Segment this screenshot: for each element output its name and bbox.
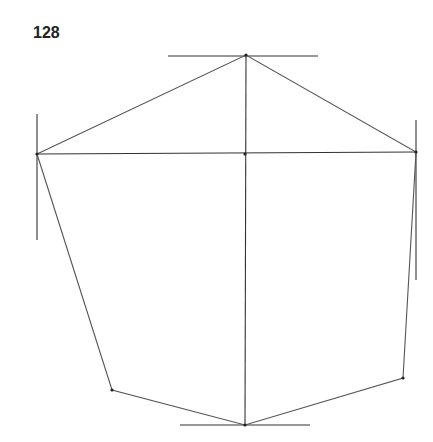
vertex-left [35, 152, 38, 155]
polygon-outline [37, 55, 416, 425]
central-vertical-axis [245, 55, 246, 425]
vertex-bottom-right [401, 376, 404, 379]
vertex-center [243, 152, 246, 155]
vertex-top [244, 53, 247, 56]
vertex-bottom-left [110, 388, 113, 391]
geometric-construction-drawing [0, 0, 433, 442]
vertex-bottom [243, 423, 246, 426]
horizontal-axis [37, 152, 416, 154]
diagram-canvas: 128 [0, 0, 433, 442]
vertex-right [414, 150, 417, 153]
